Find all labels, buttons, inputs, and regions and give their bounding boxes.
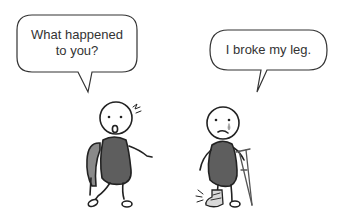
pain-lines-icon [196, 190, 203, 202]
left-bubble-line1: What happened [17, 27, 137, 43]
surprise-mark-icon [133, 104, 141, 113]
left-bubble-text: What happened to you? [17, 27, 137, 59]
injured-kid-figure [196, 107, 252, 207]
comic-panel: What happened to you? I broke my leg. [0, 0, 345, 214]
backpack-icon [87, 143, 100, 186]
backpack-kid-figure [87, 102, 152, 208]
right-bubble-text: I broke my leg. [210, 42, 327, 58]
left-bubble-line2: to you? [17, 43, 137, 59]
crutch-icon [236, 149, 252, 205]
right-speech-bubble-icon [210, 30, 327, 92]
tear-drop-icon [228, 124, 230, 130]
